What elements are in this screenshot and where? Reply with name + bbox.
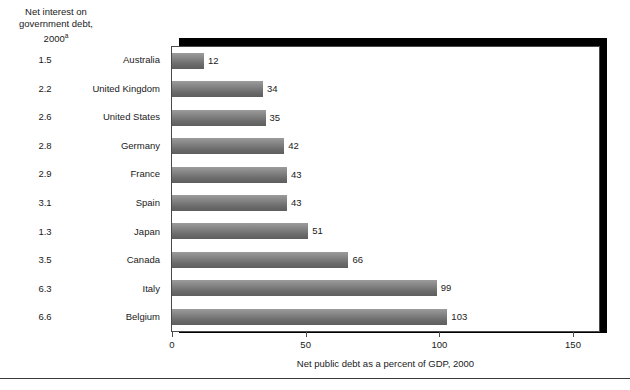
bar-row: 51	[172, 217, 599, 245]
bar	[172, 195, 287, 211]
interest-value: 2.2	[28, 75, 62, 104]
country-label: United Kingdom	[92, 75, 160, 104]
bar	[172, 223, 308, 239]
bar-value-label: 35	[270, 109, 281, 127]
country-label: Italy	[143, 275, 160, 304]
country-label: Australia	[123, 46, 160, 75]
footer-divider	[0, 378, 630, 379]
x-tick-label: 150	[565, 339, 581, 350]
bar-row: 34	[172, 75, 599, 103]
bar	[172, 309, 447, 325]
left-column-header-superscript: a	[65, 32, 69, 39]
left-column-header-text: Net interest on government debt, 2000	[19, 6, 93, 44]
bar-value-label: 34	[267, 80, 278, 98]
interest-value: 2.6	[28, 103, 62, 132]
bar	[172, 167, 287, 183]
bar-value-label: 43	[291, 194, 302, 212]
interest-value: 2.9	[28, 160, 62, 189]
x-tick-label: 100	[431, 339, 447, 350]
bar	[172, 280, 437, 296]
bar-value-label: 43	[291, 166, 302, 184]
bar	[172, 53, 204, 69]
bar	[172, 110, 266, 126]
bar-row: 66	[172, 246, 599, 274]
interest-value: 1.5	[28, 46, 62, 75]
country-label: Japan	[134, 218, 160, 247]
row-label: 6.6 Belgium	[0, 303, 168, 332]
left-column-header: Net interest on government debt, 2000a	[0, 6, 112, 45]
country-label: United States	[103, 103, 160, 132]
x-tick-label: 0	[169, 339, 174, 350]
row-label: 2.2 United Kingdom	[0, 75, 168, 104]
bar-row: 103	[172, 303, 599, 331]
interest-value: 1.3	[28, 218, 62, 247]
interest-value: 2.8	[28, 132, 62, 161]
bar-row: 43	[172, 189, 599, 217]
x-axis-title: Net public debt as a percent of GDP, 200…	[171, 358, 600, 369]
bar	[172, 138, 284, 154]
bar-row: 43	[172, 161, 599, 189]
bar-row: 35	[172, 104, 599, 132]
country-label: Germany	[121, 132, 160, 161]
country-label: Canada	[127, 246, 160, 275]
row-label: 2.6 United States	[0, 103, 168, 132]
country-label: Spain	[136, 189, 160, 218]
row-label: 2.8 Germany	[0, 132, 168, 161]
country-label: Belgium	[126, 303, 160, 332]
chart-figure: Net interest on government debt, 2000a 1…	[0, 0, 630, 390]
row-label: 2.9 France	[0, 160, 168, 189]
interest-value: 3.5	[28, 246, 62, 275]
interest-value: 6.6	[28, 303, 62, 332]
row-label-column: 1.5 Australia 2.2 United Kingdom 2.6 Uni…	[0, 46, 168, 332]
row-label: 6.3 Italy	[0, 275, 168, 304]
row-label: 3.1 Spain	[0, 189, 168, 218]
bar	[172, 81, 263, 97]
bar-value-label: 42	[288, 137, 299, 155]
bar-value-label: 51	[312, 222, 323, 240]
country-label: France	[130, 160, 160, 189]
row-label: 3.5 Canada	[0, 246, 168, 275]
x-tick-label: 50	[300, 339, 311, 350]
x-tick-mark	[172, 332, 173, 337]
interest-value: 3.1	[28, 189, 62, 218]
bars-layer: 12 34 35 42 43 43 51 66	[172, 47, 599, 331]
bar-value-label: 103	[451, 308, 467, 326]
bar-row: 42	[172, 132, 599, 160]
row-label: 1.3 Japan	[0, 218, 168, 247]
row-label: 1.5 Australia	[0, 46, 168, 75]
bar-value-label: 66	[352, 251, 363, 269]
bar	[172, 252, 348, 268]
bar-row: 99	[172, 274, 599, 302]
bar-value-label: 99	[441, 279, 452, 297]
bar-value-label: 12	[208, 52, 219, 70]
bar-row: 12	[172, 47, 599, 75]
interest-value: 6.3	[28, 275, 62, 304]
